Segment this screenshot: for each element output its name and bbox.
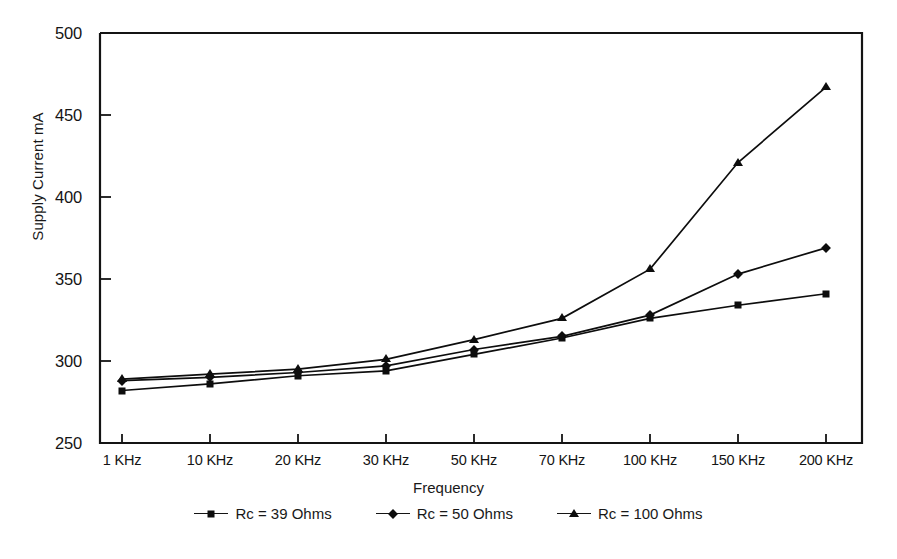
legend-item: Rc = 50 Ohms <box>376 505 513 522</box>
legend-label: Rc = 100 Ohms <box>598 505 703 522</box>
chart-legend: Rc = 39 OhmsRc = 50 OhmsRc = 100 Ohms <box>0 505 897 522</box>
supply-current-vs-frequency-chart: Supply Current mA 500450400350300250 1 K… <box>0 0 897 559</box>
legend-marker-square-icon <box>194 508 228 520</box>
legend-item: Rc = 100 Ohms <box>557 505 703 522</box>
legend-label: Rc = 50 Ohms <box>417 505 513 522</box>
legend-label: Rc = 39 Ohms <box>235 505 331 522</box>
x-tick-label: 10 KHz <box>187 452 233 468</box>
x-tick-label: 30 KHz <box>363 452 409 468</box>
legend-marker-triangle-icon <box>557 508 591 520</box>
x-tick-label: 200 KHz <box>799 452 853 468</box>
x-axis-title: Frequency <box>0 479 897 496</box>
x-tick-label: 70 KHz <box>539 452 585 468</box>
x-tick-label: 50 KHz <box>451 452 497 468</box>
x-tick-label: 150 KHz <box>711 452 765 468</box>
x-axis-tick-labels: 1 KHz10 KHz20 KHz30 KHz50 KHz70 KHz100 K… <box>0 0 897 559</box>
legend-marker-diamond-icon <box>376 508 410 520</box>
x-tick-label: 1 KHz <box>103 452 142 468</box>
x-tick-label: 20 KHz <box>275 452 321 468</box>
x-tick-label: 100 KHz <box>623 452 677 468</box>
legend-item: Rc = 39 Ohms <box>194 505 331 522</box>
